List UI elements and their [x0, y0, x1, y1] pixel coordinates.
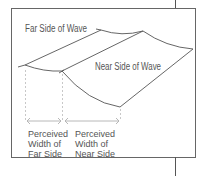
width-arrows [27, 118, 119, 124]
far-side-label: Far Side of Wave [25, 23, 87, 34]
far-width-label: Perceived Width of Far Side [28, 129, 68, 159]
svg-text:Perceived: Perceived [28, 129, 68, 139]
wave-perception-diagram: Far Side of Wave Near Side of Wave Perce… [0, 0, 206, 176]
svg-text:Width of: Width of [75, 139, 109, 149]
svg-text:Perceived: Perceived [75, 129, 115, 139]
near-width-label: Perceived Width of Near Side [75, 129, 115, 159]
svg-text:Width of: Width of [28, 139, 62, 149]
projection-lines [26, 70, 121, 121]
near-side-label: Near Side of Wave [95, 61, 161, 72]
svg-text:Far Side: Far Side [28, 149, 62, 159]
svg-text:Near Side: Near Side [75, 149, 115, 159]
